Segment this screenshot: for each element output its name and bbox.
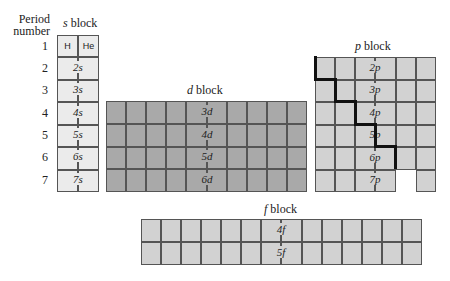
- period-label-line2: number: [2, 25, 50, 37]
- p-row-label: 3p: [365, 83, 385, 95]
- cell: [342, 219, 362, 242]
- cell: [247, 169, 267, 192]
- s-block: H He 2s 3s 4s 5s 6s 7s: [57, 35, 99, 192]
- cell: [241, 219, 261, 242]
- cell-helium: He: [78, 35, 99, 57]
- cell: [227, 147, 247, 170]
- cell: [315, 102, 335, 125]
- cell: [126, 101, 146, 124]
- period-7: 7: [28, 173, 48, 188]
- cell: [342, 242, 362, 265]
- cell: [287, 124, 307, 147]
- p-row-label: 2p: [365, 61, 385, 73]
- cell: [402, 219, 422, 242]
- cell: [416, 102, 436, 125]
- cell: [146, 101, 166, 124]
- period-1: 1: [28, 39, 48, 54]
- cell: [181, 219, 201, 242]
- cell: [221, 219, 241, 242]
- cell: [416, 80, 436, 103]
- cell: [267, 101, 287, 124]
- cell: [287, 101, 307, 124]
- cell: [396, 147, 416, 170]
- cell: [227, 124, 247, 147]
- cell: [402, 242, 422, 265]
- cell: [416, 170, 436, 193]
- f-block: 4f 5f: [141, 219, 422, 265]
- cell: [166, 124, 186, 147]
- cell: [106, 124, 126, 147]
- f-block-title: f block: [264, 202, 297, 217]
- cell: [315, 147, 335, 170]
- cell: [335, 80, 355, 103]
- cell: [362, 219, 382, 242]
- cell: [141, 219, 161, 242]
- cell: [201, 242, 221, 265]
- cell: [315, 125, 335, 148]
- cell: [161, 242, 181, 265]
- s-row-label: 5s: [67, 128, 89, 140]
- cell: [302, 219, 322, 242]
- s-row-label: 3s: [67, 83, 89, 95]
- period-6: 6: [28, 150, 48, 165]
- cell: [161, 219, 181, 242]
- cell: [241, 242, 261, 265]
- cell: [416, 125, 436, 148]
- cell: [247, 101, 267, 124]
- period-3: 3: [28, 83, 48, 98]
- cell: [287, 147, 307, 170]
- s-block-title: s block: [63, 16, 97, 31]
- cell: [382, 219, 402, 242]
- cell: [322, 242, 342, 265]
- d-block-suffix: block: [193, 83, 223, 97]
- cell: [335, 170, 355, 193]
- cell: [267, 169, 287, 192]
- cell: [166, 169, 186, 192]
- s-row-label: 7s: [67, 173, 89, 185]
- s-row-label: 4s: [67, 106, 89, 118]
- cell: [335, 125, 355, 148]
- cell: [201, 219, 221, 242]
- cell: [106, 147, 126, 170]
- period-2: 2: [28, 61, 48, 76]
- period-5: 5: [28, 128, 48, 143]
- cell: [126, 124, 146, 147]
- cell: [141, 242, 161, 265]
- cell: [247, 147, 267, 170]
- period-4: 4: [28, 106, 48, 121]
- d-block: 3d 4d 5d 6d: [106, 101, 307, 192]
- p-block-suffix: block: [361, 39, 391, 53]
- cell: [396, 125, 416, 148]
- cell-hydrogen: H: [57, 35, 78, 57]
- cell: [247, 124, 267, 147]
- s-row-label: 2s: [67, 61, 89, 73]
- cell: [335, 57, 355, 80]
- cell: [335, 147, 355, 170]
- s-block-suffix: block: [68, 16, 98, 30]
- cell: [267, 147, 287, 170]
- p-row-label: 4p: [365, 106, 385, 118]
- period-number-heading: Period number: [2, 13, 50, 37]
- p-block-title: p block: [355, 39, 391, 54]
- cell: [227, 169, 247, 192]
- p-row-label: 6p: [365, 151, 385, 163]
- d-row-label: 5d: [196, 150, 218, 162]
- f-block-suffix: block: [267, 202, 297, 216]
- cell: [416, 57, 436, 80]
- cell: [315, 57, 335, 80]
- f-row-label: 5f: [271, 246, 291, 258]
- cell: [146, 124, 166, 147]
- f-row-label: 4f: [271, 223, 291, 235]
- cell: [146, 169, 166, 192]
- cell: [396, 80, 416, 103]
- cell: [396, 57, 416, 80]
- cell: [362, 242, 382, 265]
- d-row-label: 6d: [196, 173, 218, 185]
- cell: [335, 102, 355, 125]
- cell: [302, 242, 322, 265]
- cell: [396, 102, 416, 125]
- cell: [146, 147, 166, 170]
- cell: [267, 124, 287, 147]
- d-block-title: d block: [187, 83, 223, 98]
- cell: [382, 242, 402, 265]
